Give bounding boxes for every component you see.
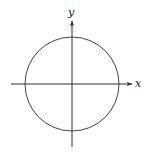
diagram-canvas: x y [0,0,151,157]
x-axis-label: x [135,77,142,90]
y-axis-label: y [67,6,75,19]
